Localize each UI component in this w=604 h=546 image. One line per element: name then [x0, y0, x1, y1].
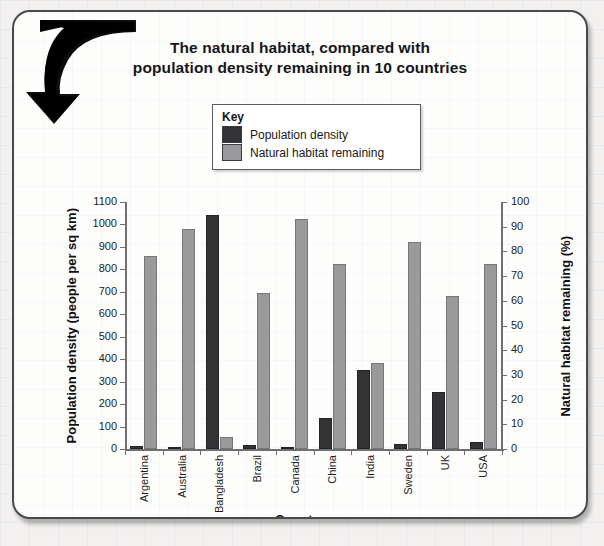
x-axis-label: India: [364, 455, 376, 479]
bar-population-density: [243, 445, 256, 449]
y-axis-right-title-text: Natural habitat remaining (%): [558, 236, 573, 417]
y-tick-label-left: 0: [77, 442, 117, 454]
y-tick-right: [502, 202, 507, 203]
chart-card-inner: The natural habitat, compared with popul…: [14, 12, 586, 517]
legend-heading: Key: [222, 110, 414, 124]
x-axis-label: Australia: [176, 455, 188, 498]
bar-natural-habitat: [333, 264, 346, 449]
bar-natural-habitat: [220, 437, 233, 449]
y-tick-right: [502, 251, 507, 252]
x-axis-label: Canada: [289, 455, 301, 494]
y-tick-label-right: 70: [511, 269, 523, 281]
x-tick: [427, 449, 428, 455]
y-tick-label-left: 700: [77, 285, 117, 297]
y-tick-label-right: 30: [511, 368, 523, 380]
bar-population-density: [130, 446, 143, 449]
x-tick: [351, 449, 352, 455]
bar-natural-habitat: [371, 363, 384, 449]
legend-item-natural-habitat: Natural habitat remaining: [222, 144, 414, 161]
legend-label-natural-habitat: Natural habitat remaining: [250, 146, 384, 160]
bar-natural-habitat: [182, 229, 195, 449]
y-tick-right: [502, 424, 507, 425]
y-tick-right: [502, 227, 507, 228]
legend-swatch-natural-habitat: [222, 144, 242, 161]
bar-population-density: [432, 392, 445, 449]
chart-title: The natural habitat, compared with popul…: [14, 38, 586, 78]
bar-natural-habitat: [144, 256, 157, 449]
x-axis-label: Bangladesh: [213, 455, 225, 513]
x-tick: [389, 449, 390, 455]
x-axis-label: Argentina: [138, 455, 150, 502]
chart-title-line-2: population density remaining in 10 count…: [14, 58, 586, 78]
bar-natural-habitat: [257, 293, 270, 449]
x-tick: [314, 449, 315, 455]
y-tick-label-left: 300: [77, 375, 117, 387]
x-axis-title: Country: [14, 512, 586, 517]
y-tick-right: [502, 276, 507, 277]
y-tick-label-left: 1000: [77, 217, 117, 229]
y-tick-right: [502, 400, 507, 401]
x-axis-label: Brazil: [251, 455, 263, 483]
y-axis-left-title: Population density (people per sq km): [60, 202, 82, 450]
bar-population-density: [168, 447, 181, 449]
x-axis-line: [125, 449, 504, 451]
x-tick: [125, 449, 126, 455]
bar-population-density: [206, 215, 219, 449]
legend: Key Population density Natural habitat r…: [212, 104, 421, 170]
bar-population-density: [319, 418, 332, 449]
y-tick-label-left: 500: [77, 330, 117, 342]
y-tick-label-left: 900: [77, 240, 117, 252]
y-axis-left-title-text: Population density (people per sq km): [64, 208, 79, 443]
legend-label-population-density: Population density: [250, 128, 348, 142]
y-tick-label-right: 80: [511, 244, 523, 256]
y-tick-right: [502, 301, 507, 302]
y-tick-right: [502, 326, 507, 327]
bar-population-density: [394, 444, 407, 449]
x-axis-label: USA: [477, 455, 489, 478]
bar-natural-habitat: [446, 296, 459, 449]
y-tick-label-right: 60: [511, 294, 523, 306]
y-tick-right: [502, 375, 507, 376]
y-tick-label-right: 50: [511, 319, 523, 331]
x-axis-label: Sweden: [402, 455, 414, 495]
x-tick: [464, 449, 465, 455]
legend-item-population-density: Population density: [222, 126, 414, 143]
y-tick-right: [502, 350, 507, 351]
y-tick-label-left: 800: [77, 262, 117, 274]
x-tick: [238, 449, 239, 455]
y-tick-label-right: 100: [511, 195, 529, 207]
y-tick-label-right: 20: [511, 393, 523, 405]
legend-swatch-population-density: [222, 126, 242, 143]
y-tick-label-left: 200: [77, 397, 117, 409]
plot-area: [125, 202, 502, 449]
chart-title-line-1: The natural habitat, compared with: [14, 38, 586, 58]
bar-natural-habitat: [295, 219, 308, 449]
x-tick: [276, 449, 277, 455]
x-tick: [200, 449, 201, 455]
y-tick-label-right: 0: [511, 442, 517, 454]
y-tick-label-right: 40: [511, 343, 523, 355]
y-tick-label-right: 10: [511, 417, 523, 429]
y-tick-label-left: 100: [77, 420, 117, 432]
bar-natural-habitat: [484, 264, 497, 449]
y-tick-label-right: 90: [511, 220, 523, 232]
y-axis-right-title: Natural habitat remaining (%): [554, 202, 576, 450]
y-tick-label-left: 400: [77, 352, 117, 364]
x-tick: [502, 449, 503, 455]
bar-population-density: [470, 442, 483, 449]
y-tick-label-left: 600: [77, 307, 117, 319]
x-axis-label: UK: [439, 455, 451, 470]
bar-population-density: [357, 370, 370, 449]
bar-natural-habitat: [408, 242, 421, 449]
x-tick: [163, 449, 164, 455]
bar-population-density: [281, 447, 294, 449]
chart-card: The natural habitat, compared with popul…: [12, 10, 588, 519]
y-tick-label-left: 1100: [77, 195, 117, 207]
x-axis-label: China: [326, 455, 338, 484]
